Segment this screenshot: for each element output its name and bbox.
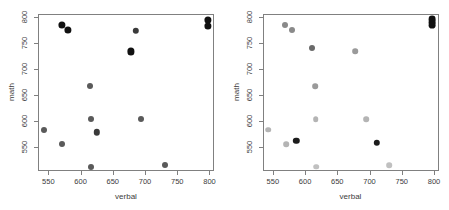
y-tick-label: 700 [21,62,29,75]
data-point [313,117,319,123]
x-tick-mark [370,171,371,175]
x-tick-label: 700 [139,178,152,186]
right-yaxis-title: math [233,83,241,101]
y-tick-label: 600 [21,114,29,127]
right-plot-box [263,14,439,171]
data-point [41,127,47,133]
x-tick-label: 750 [395,178,408,186]
data-point [309,45,315,51]
right-panel: verbal math 5506006507007508005506006507… [225,0,449,210]
left-plot-area [39,15,213,170]
y-tick-mark [34,147,38,148]
scatterplot-figure: verbal math 5506006507007508005506006507… [0,0,449,210]
x-tick-mark [434,171,435,175]
data-point [363,117,369,123]
y-tick-mark [259,121,263,122]
x-tick-mark [273,171,274,175]
x-tick-mark [145,171,146,175]
y-tick-label: 650 [246,88,254,101]
y-tick-label: 800 [246,10,254,23]
data-point [429,22,436,29]
y-tick-mark [259,17,263,18]
x-tick-mark [177,171,178,175]
y-tick-mark [34,17,38,18]
data-point [127,48,134,55]
data-point [265,127,271,133]
data-point [64,26,71,33]
x-tick-label: 800 [428,178,441,186]
x-tick-label: 600 [299,178,312,186]
left-xaxis-title: verbal [115,193,137,201]
data-point [162,162,168,168]
data-point [94,129,100,135]
y-tick-mark [34,95,38,96]
data-point [352,49,358,55]
data-point [374,140,380,146]
y-tick-mark [34,69,38,70]
y-tick-mark [259,43,263,44]
y-tick-label: 750 [246,36,254,49]
data-point [88,116,94,122]
data-point [204,22,211,29]
y-tick-mark [259,69,263,70]
data-point [133,27,139,33]
x-tick-label: 600 [74,178,87,186]
data-point [293,138,299,144]
x-tick-label: 750 [171,178,184,186]
x-tick-label: 650 [331,178,344,186]
x-tick-mark [113,171,114,175]
x-tick-label: 650 [107,178,120,186]
x-tick-mark [337,171,338,175]
x-tick-label: 550 [267,178,280,186]
right-xaxis-title: verbal [340,193,362,201]
x-tick-label: 800 [203,178,216,186]
x-tick-mark [402,171,403,175]
data-point [87,83,93,89]
left-yaxis-title: math [8,83,16,101]
y-tick-label: 700 [246,62,254,75]
y-tick-label: 550 [246,140,254,153]
y-tick-mark [34,43,38,44]
y-tick-label: 600 [246,114,254,127]
x-tick-label: 550 [42,178,55,186]
y-tick-label: 550 [21,140,29,153]
data-point [386,162,392,168]
y-tick-mark [34,121,38,122]
data-point [88,164,94,170]
data-point [282,22,288,28]
x-tick-mark [48,171,49,175]
y-tick-label: 800 [21,10,29,23]
x-tick-mark [209,171,210,175]
left-plot-box [38,14,214,171]
x-tick-mark [81,171,82,175]
data-point [59,141,65,147]
y-tick-label: 750 [21,36,29,49]
x-tick-label: 700 [363,178,376,186]
y-tick-mark [259,95,263,96]
data-point [314,164,320,170]
left-panel: verbal math 5506006507007508005506006507… [0,0,225,210]
y-tick-label: 650 [21,88,29,101]
data-point [138,116,144,122]
y-tick-mark [259,147,263,148]
data-point [283,141,289,147]
x-tick-mark [305,171,306,175]
data-point [312,83,318,89]
data-point [289,27,295,33]
right-plot-area [264,15,438,170]
